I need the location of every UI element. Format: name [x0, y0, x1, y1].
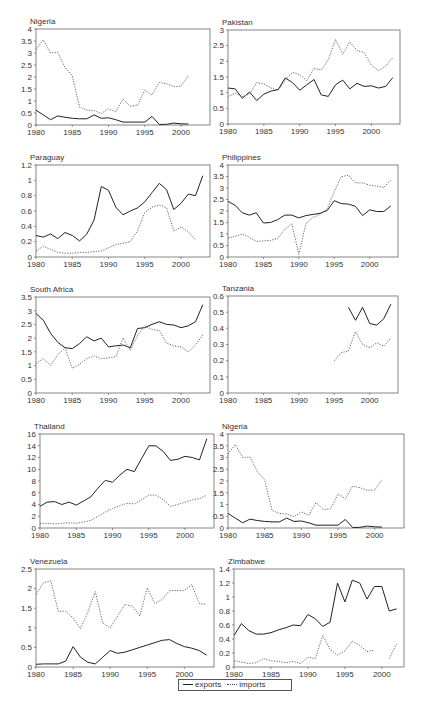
- plot-frame: [36, 29, 210, 125]
- y-tick-label: 1.2: [21, 161, 33, 170]
- x-tick-label: 2000: [175, 670, 193, 679]
- y-tick-label: 1.5: [213, 73, 225, 82]
- legend-imports: imports: [227, 679, 265, 691]
- x-tick-label: 1980: [27, 128, 45, 137]
- x-tick-label: 1995: [136, 128, 154, 137]
- imports-line: [36, 40, 188, 114]
- x-tick-label: 1990: [290, 260, 308, 269]
- x-tick-label: 2000: [172, 128, 190, 137]
- exports-line: [36, 110, 188, 124]
- panel-title: Tanzania: [222, 284, 255, 293]
- x-tick-label: 1985: [255, 127, 273, 136]
- panel-title: Thailand: [34, 422, 65, 431]
- x-tick-label: 2000: [373, 670, 391, 679]
- imports-line: [389, 644, 396, 659]
- y-tick-label: 1: [28, 624, 33, 633]
- x-tick-label: 1990: [104, 531, 122, 540]
- imports-line: [36, 326, 203, 369]
- x-tick-label: 2000: [362, 127, 380, 136]
- exports-line: [36, 305, 203, 349]
- exports-line: [40, 439, 207, 507]
- y-tick-label: 0.5: [21, 643, 33, 652]
- y-tick-label: 12: [27, 453, 36, 462]
- y-tick-label: 0.5: [213, 512, 225, 521]
- x-tick-label: 2000: [176, 531, 194, 540]
- y-tick-label: 3: [28, 307, 33, 316]
- exports-line: [228, 513, 382, 527]
- y-tick-label: 3.5: [213, 172, 225, 181]
- chart-panel-thailand: Thailand02468101214161980198519901995200…: [27, 422, 214, 540]
- y-tick-label: 0.4: [219, 635, 231, 644]
- y-tick-label: 0.2: [21, 237, 33, 246]
- y-tick-label: 0.2: [219, 649, 231, 658]
- x-tick-label: 1990: [101, 670, 119, 679]
- x-tick-label: 2000: [172, 260, 190, 269]
- chart-panel-tanzania: Tanzania00.10.20.30.40.50.61980198519901…: [213, 284, 398, 405]
- x-tick-label: 1985: [255, 396, 273, 405]
- x-tick-label: 1985: [63, 396, 81, 405]
- exports-line: [228, 201, 391, 223]
- y-tick-label: 3.5: [213, 442, 225, 451]
- panel-title: Nigeria: [30, 17, 56, 26]
- plot-frame: [234, 569, 404, 667]
- chart-panel-venezuela: Venezuela00.511.522.51980198519901995200…: [21, 557, 214, 679]
- y-tick-label: 4: [28, 25, 33, 34]
- x-tick-label: 1990: [291, 127, 309, 136]
- y-tick-label: 3: [28, 49, 33, 58]
- imports-line: [40, 495, 207, 524]
- y-tick-label: 0.8: [21, 191, 33, 200]
- y-tick-label: 1: [220, 500, 225, 509]
- y-tick-label: 6: [32, 489, 37, 498]
- y-tick-label: 0.6: [219, 621, 231, 630]
- x-tick-label: 1995: [325, 260, 343, 269]
- y-tick-label: 0.6: [21, 207, 33, 216]
- panel-title: Pakistan: [222, 18, 253, 27]
- y-tick-label: 3: [220, 26, 225, 35]
- plot-frame: [40, 434, 214, 528]
- x-tick-label: 1980: [219, 260, 237, 269]
- y-tick-label: 0.1: [213, 373, 225, 382]
- x-tick-label: 2000: [361, 260, 379, 269]
- y-tick-label: 3.5: [21, 293, 33, 302]
- x-tick-label: 1990: [100, 260, 118, 269]
- y-tick-label: 3.5: [21, 37, 33, 46]
- x-tick-label: 1995: [138, 670, 156, 679]
- y-tick-label: 2: [220, 477, 225, 486]
- y-tick-label: 2.5: [213, 195, 225, 204]
- y-tick-label: 1: [220, 88, 225, 97]
- plot-frame: [228, 434, 404, 528]
- y-tick-label: 2: [32, 512, 37, 521]
- plot-frame: [228, 165, 398, 257]
- imports-line: [334, 332, 391, 361]
- x-tick-label: 1990: [100, 396, 118, 405]
- y-tick-label: 3: [220, 184, 225, 193]
- y-tick-label: 0.5: [21, 109, 33, 118]
- imports-line: [228, 39, 393, 96]
- solid-line-swatch-icon: [183, 684, 193, 685]
- y-tick-label: 2: [220, 207, 225, 216]
- plot-frame: [228, 30, 400, 124]
- chart-panel-nigeria: Nigeria00.511.522.533.541980198519901995…: [21, 17, 210, 137]
- chart-panel-south-africa: South Africa00.511.522.533.5198019851990…: [21, 285, 210, 405]
- y-tick-label: 0.5: [213, 241, 225, 250]
- y-tick-label: 1.4: [219, 565, 231, 574]
- y-tick-label: 4: [32, 500, 37, 509]
- y-tick-label: 3: [220, 453, 225, 462]
- panel-title: Philippines: [222, 153, 261, 162]
- y-tick-label: 2: [220, 57, 225, 66]
- x-tick-label: 1995: [140, 531, 158, 540]
- exports-line: [36, 176, 203, 241]
- y-tick-label: 1.5: [21, 85, 33, 94]
- x-tick-label: 1995: [327, 127, 345, 136]
- y-tick-label: 0.5: [213, 308, 225, 317]
- y-tick-label: 2.5: [213, 41, 225, 50]
- y-tick-label: 2: [28, 584, 33, 593]
- chart-panel-philippines: Philippines00.511.522.533.54198019851990…: [213, 153, 398, 269]
- y-tick-label: 1: [220, 230, 225, 239]
- y-tick-label: 1: [226, 593, 231, 602]
- legend-exports: exports: [183, 679, 221, 691]
- y-tick-label: 0.4: [21, 222, 33, 231]
- y-tick-label: 1: [28, 361, 33, 370]
- x-tick-label: 2000: [361, 396, 379, 405]
- x-tick-label: 2000: [172, 396, 190, 405]
